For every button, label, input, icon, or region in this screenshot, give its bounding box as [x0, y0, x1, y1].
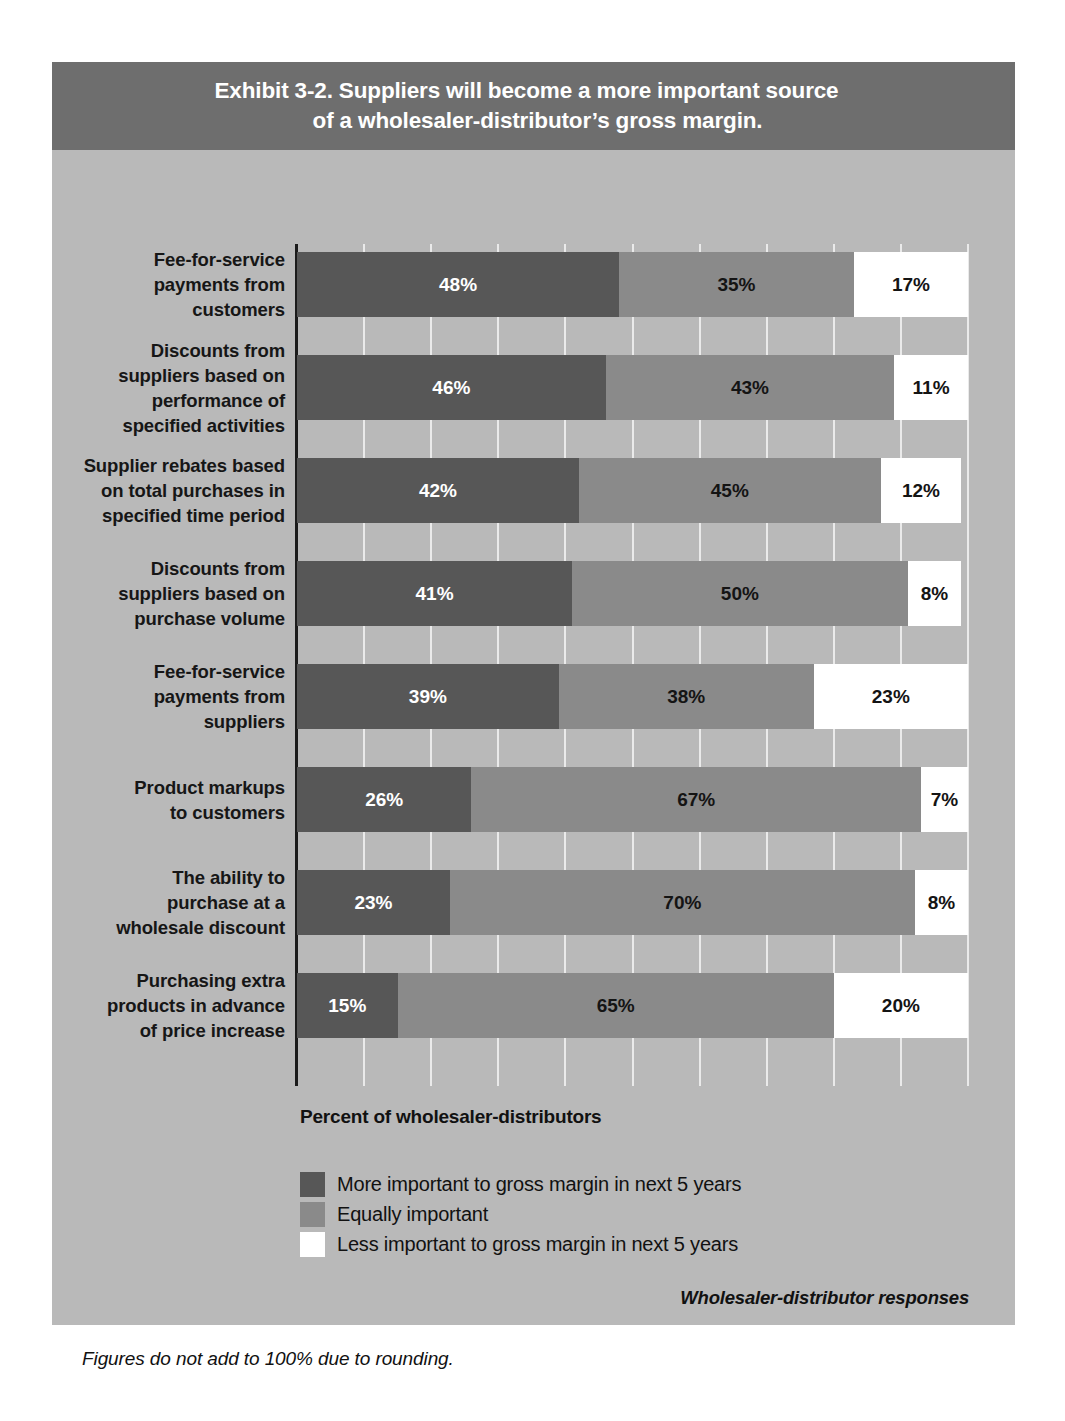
bar-segment: 11% — [894, 355, 968, 420]
category-label-line: specified time period — [57, 503, 285, 528]
bar-segment-label: 70% — [663, 892, 701, 914]
bar-row: 23%70%8% — [297, 870, 968, 935]
bar-row: 39%38%23% — [297, 664, 968, 729]
legend-item: More important to gross margin in next 5… — [300, 1169, 960, 1199]
category-label: Purchasing extraproducts in advanceof pr… — [57, 968, 285, 1043]
bar-segment: 67% — [471, 767, 921, 832]
exhibit-title-line-1: Exhibit 3-2. Suppliers will become a mor… — [215, 76, 839, 106]
bar-segment-label: 48% — [439, 274, 477, 296]
category-label: Fee-for-servicepayments fromcustomers — [57, 247, 285, 322]
bar-segment-label: 23% — [354, 892, 392, 914]
legend-label: Less important to gross margin in next 5… — [337, 1233, 738, 1256]
bar-segment-label: 45% — [711, 480, 749, 502]
legend-swatch-icon — [300, 1202, 325, 1227]
category-label-line: Fee-for-service — [57, 247, 285, 272]
bar-segment: 15% — [297, 973, 398, 1038]
bar-segment-label: 67% — [677, 789, 715, 811]
bar-segment: 65% — [398, 973, 834, 1038]
bar-segment: 42% — [297, 458, 579, 523]
bar-row: 26%67%7% — [297, 767, 968, 832]
category-label-line: wholesale discount — [57, 915, 285, 940]
bar-row: 41%50%8% — [297, 561, 968, 626]
legend-swatch-icon — [300, 1232, 325, 1257]
category-label-line: Discounts from — [57, 556, 285, 581]
source-note: Wholesaler-distributor responses — [680, 1287, 969, 1309]
category-label-line: on total purchases in — [57, 478, 285, 503]
category-label: Supplier rebates basedon total purchases… — [57, 453, 285, 528]
x-axis-caption: Percent of wholesaler-distributors — [300, 1106, 602, 1128]
category-label-line: customers — [57, 297, 285, 322]
chart-legend: More important to gross margin in next 5… — [300, 1169, 960, 1259]
bar-row: 46%43%11% — [297, 355, 968, 420]
bar-segment-label: 8% — [921, 583, 948, 605]
bar-segment: 39% — [297, 664, 559, 729]
legend-item: Less important to gross margin in next 5… — [300, 1229, 960, 1259]
category-label-line: specified activities — [57, 413, 285, 438]
exhibit-panel: Exhibit 3-2. Suppliers will become a mor… — [52, 62, 1015, 1325]
category-label-line: purchase at a — [57, 890, 285, 915]
bar-segment: 23% — [297, 870, 450, 935]
bar-segment: 26% — [297, 767, 471, 832]
exhibit-title-line-2: of a wholesaler-distributor’s gross marg… — [313, 106, 763, 136]
bar-segment: 20% — [834, 973, 968, 1038]
category-label-line: Product markups — [57, 775, 285, 800]
category-label-line: of price increase — [57, 1018, 285, 1043]
chart-body: Fee-for-servicepayments fromcustomersDis… — [52, 150, 1015, 1325]
exhibit-title-band: Exhibit 3-2. Suppliers will become a mor… — [52, 62, 1015, 150]
legend-swatch-icon — [300, 1172, 325, 1197]
category-label-line: suppliers — [57, 709, 285, 734]
category-label-line: payments from — [57, 272, 285, 297]
category-label: Product markupsto customers — [57, 775, 285, 825]
bar-segment-label: 43% — [731, 377, 769, 399]
bar-segment-label: 35% — [717, 274, 755, 296]
bar-segment: 50% — [572, 561, 908, 626]
bar-segment-label: 12% — [902, 480, 940, 502]
legend-label: Equally important — [337, 1203, 488, 1226]
bar-segment-label: 23% — [872, 686, 910, 708]
bar-row: 15%65%20% — [297, 973, 968, 1038]
plot-area: 48%35%17%46%43%11%42%45%12%41%50%8%39%38… — [297, 244, 968, 1086]
bar-segment: 8% — [908, 561, 962, 626]
category-label-line: Supplier rebates based — [57, 453, 285, 478]
category-label-line: to customers — [57, 800, 285, 825]
rounding-note: Figures do not add to 100% due to roundi… — [82, 1348, 454, 1370]
bar-segment-label: 7% — [931, 789, 958, 811]
bar-segment: 48% — [297, 252, 619, 317]
bar-segment-label: 39% — [409, 686, 447, 708]
bar-segment: 38% — [559, 664, 814, 729]
bar-segment: 43% — [606, 355, 895, 420]
category-label-line: Fee-for-service — [57, 659, 285, 684]
bar-segment: 46% — [297, 355, 606, 420]
category-label-line: payments from — [57, 684, 285, 709]
bar-segment-label: 42% — [419, 480, 457, 502]
category-label-line: purchase volume — [57, 606, 285, 631]
category-label: Discounts fromsuppliers based onpurchase… — [57, 556, 285, 631]
bar-segment-label: 20% — [882, 995, 920, 1017]
legend-label: More important to gross margin in next 5… — [337, 1173, 741, 1196]
bar-segment-label: 46% — [432, 377, 470, 399]
category-label: The ability topurchase at awholesale dis… — [57, 865, 285, 940]
bar-segment-label: 50% — [721, 583, 759, 605]
bar-segment-label: 17% — [892, 274, 930, 296]
category-label-line: The ability to — [57, 865, 285, 890]
bar-segment: 23% — [814, 664, 968, 729]
category-label-line: performance of — [57, 388, 285, 413]
category-label-line: suppliers based on — [57, 581, 285, 606]
bar-segment-label: 26% — [365, 789, 403, 811]
category-label-line: products in advance — [57, 993, 285, 1018]
bar-row: 42%45%12% — [297, 458, 968, 523]
bar-segment: 7% — [921, 767, 968, 832]
bar-row: 48%35%17% — [297, 252, 968, 317]
bar-segment: 17% — [854, 252, 968, 317]
bar-segment: 8% — [915, 870, 968, 935]
bar-segment-label: 41% — [416, 583, 454, 605]
bar-segment: 45% — [579, 458, 881, 523]
legend-item: Equally important — [300, 1199, 960, 1229]
bar-segment: 70% — [450, 870, 915, 935]
bar-segment-label: 65% — [597, 995, 635, 1017]
bar-segment: 12% — [881, 458, 962, 523]
bar-segment-label: 38% — [667, 686, 705, 708]
bar-segment: 35% — [619, 252, 854, 317]
category-label-line: suppliers based on — [57, 363, 285, 388]
bar-segment-label: 8% — [928, 892, 955, 914]
